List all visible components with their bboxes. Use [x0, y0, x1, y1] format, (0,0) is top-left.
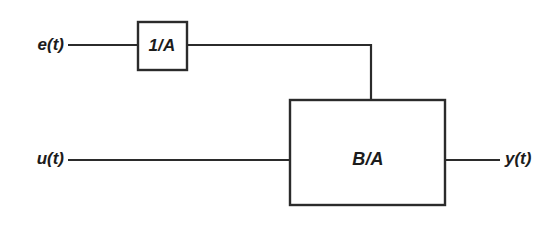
signal-label-u-of-t: u(t)	[37, 149, 65, 168]
diagram-background	[0, 0, 560, 231]
signal-label-y-of-t: y(t)	[504, 149, 532, 168]
signal-label-e-of-t: e(t)	[38, 35, 65, 54]
diagram-canvas: 1/A B/A e(t) u(t) y(t)	[0, 0, 560, 231]
block-inverse-a-label: 1/A	[148, 36, 175, 55]
block-diagram-figure: 1/A B/A e(t) u(t) y(t)	[0, 0, 560, 231]
block-b-over-a-label: B/A	[352, 149, 384, 169]
